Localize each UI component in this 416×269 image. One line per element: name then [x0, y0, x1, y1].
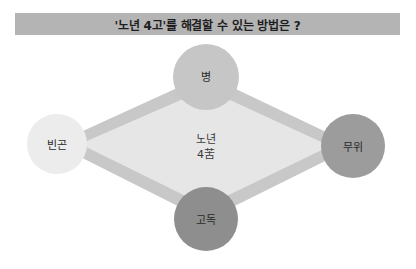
center-label: 노년 4苦 — [196, 132, 216, 162]
node-bottom-label: 고독 — [196, 211, 216, 227]
node-top-label: 병 — [201, 68, 211, 84]
node-left-label: 빈곤 — [47, 136, 67, 152]
center-label-line1: 노년 — [196, 132, 216, 147]
center-label-line2: 4苦 — [196, 147, 216, 162]
node-right-label: 무위 — [343, 138, 363, 154]
